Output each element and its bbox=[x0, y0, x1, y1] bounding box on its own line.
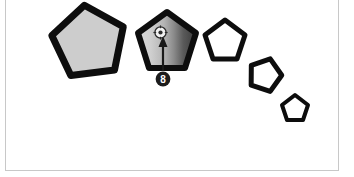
step-badge: 8 bbox=[156, 72, 171, 87]
pentagon-1-body[interactable] bbox=[49, 1, 129, 77]
pentagon-3[interactable] bbox=[205, 20, 245, 59]
pentagon-4[interactable] bbox=[245, 54, 285, 93]
step-badge-label: 8 bbox=[160, 74, 166, 85]
pentagon-5[interactable] bbox=[282, 95, 308, 120]
screenshot-root: 8 bbox=[0, 0, 354, 177]
shape-layer: 8 bbox=[0, 0, 354, 177]
pentagon-1[interactable] bbox=[49, 1, 129, 77]
pentagon-3-body[interactable] bbox=[205, 20, 245, 59]
pentagon-2[interactable] bbox=[138, 12, 196, 68]
pentagon-2-body[interactable] bbox=[138, 12, 196, 68]
pentagon-5-body[interactable] bbox=[282, 95, 308, 120]
pentagon-4-body[interactable] bbox=[245, 54, 285, 93]
